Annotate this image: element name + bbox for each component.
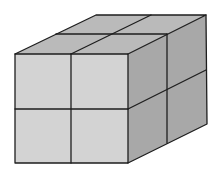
cube-diagram (0, 0, 212, 176)
cube-svg (0, 0, 212, 176)
